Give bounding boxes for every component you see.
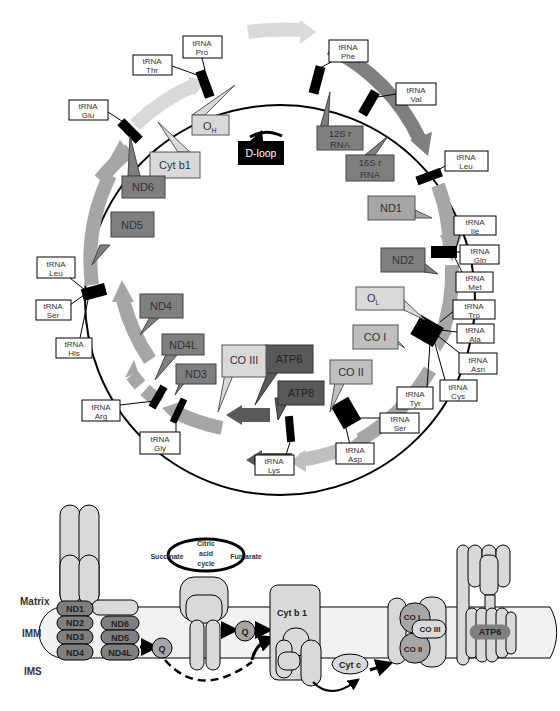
cytc-label: Cyt c xyxy=(339,660,361,670)
svg-text:tRNA: tRNA xyxy=(456,153,476,162)
svg-text:tRNA: tRNA xyxy=(405,390,425,399)
trna-leu-1: tRNALeu xyxy=(435,151,488,172)
svg-text:ND2: ND2 xyxy=(66,618,84,628)
matrix-label: Matrix xyxy=(20,596,50,607)
svg-text:tRNA: tRNA xyxy=(465,326,485,335)
svg-text:tRNA: tRNA xyxy=(91,403,111,412)
complex1-arm xyxy=(60,505,138,615)
svg-text:Ile: Ile xyxy=(471,227,480,236)
trna-bar-val xyxy=(358,89,380,117)
trna-gln: tRNAGln xyxy=(457,245,499,265)
svg-text:Asn: Asn xyxy=(471,365,485,374)
svg-text:Arg: Arg xyxy=(95,412,107,421)
nd4l-arrow xyxy=(132,375,140,385)
svg-text:Phe: Phe xyxy=(341,52,356,61)
rrna16-label-1: 16S r xyxy=(359,157,382,168)
svg-text:Gln: Gln xyxy=(474,256,486,265)
svg-text:tRNA: tRNA xyxy=(468,356,488,365)
atp-synthase xyxy=(457,545,516,665)
svg-text:ND1: ND1 xyxy=(66,604,84,614)
nd5-arrow xyxy=(90,175,110,285)
trna-bar-ile-gln-met xyxy=(431,246,457,258)
svg-text:His: His xyxy=(68,349,80,358)
ol-callout xyxy=(356,287,404,310)
trna-pro: tRNAPro xyxy=(183,36,222,70)
svg-text:ND3: ND3 xyxy=(66,632,84,642)
complex3 xyxy=(270,585,321,686)
svg-text:Pro: Pro xyxy=(196,48,209,57)
svg-text:tRNA: tRNA xyxy=(390,415,410,424)
atp6-label-etc: ATP6 xyxy=(479,627,501,637)
trna-arg: tRNAArg xyxy=(82,400,154,421)
oh-arrow xyxy=(248,30,300,32)
svg-text:ND5: ND5 xyxy=(111,633,129,643)
svg-text:CO III: CO III xyxy=(420,625,441,634)
figure-caption-faded xyxy=(4,697,556,709)
svg-text:Cys: Cys xyxy=(451,392,465,401)
q-label-2: Q xyxy=(241,627,248,637)
svg-text:Ser: Ser xyxy=(47,311,60,320)
svg-text:Citric: Citric xyxy=(197,540,215,547)
atp6-label: ATP6 xyxy=(276,353,303,365)
rrna16-label-2: RNA xyxy=(360,169,381,180)
trna-ser-1: tRNASer xyxy=(352,413,419,433)
svg-text:Val: Val xyxy=(411,95,422,104)
trna-bar-phe xyxy=(309,65,326,95)
cytb-arrow xyxy=(135,85,195,125)
svg-text:Met: Met xyxy=(468,283,482,292)
trna-tyr: tRNATyr xyxy=(397,343,433,409)
imm-label: IMM xyxy=(22,628,41,639)
svg-text:Glu: Glu xyxy=(82,111,94,120)
co2-label: CO II xyxy=(338,366,364,378)
svg-text:acid: acid xyxy=(199,550,213,557)
svg-text:CO I: CO I xyxy=(404,613,420,622)
svg-text:Thr: Thr xyxy=(146,66,158,75)
svg-text:Trp: Trp xyxy=(468,311,480,320)
q-label-1: Q xyxy=(158,644,165,654)
svg-text:ND4L: ND4L xyxy=(108,648,132,658)
svg-text:Leu: Leu xyxy=(459,162,472,171)
rrna12-label-1: 12S r xyxy=(329,128,352,139)
svg-text:Succinate: Succinate xyxy=(150,553,183,560)
nd5-label: ND5 xyxy=(121,219,143,231)
nd4-label: ND4 xyxy=(150,300,172,312)
svg-text:Ser: Ser xyxy=(394,424,407,433)
svg-text:tRNA: tRNA xyxy=(464,302,484,311)
ims-label: IMS xyxy=(24,666,42,677)
svg-text:tRNA: tRNA xyxy=(345,446,365,455)
svg-text:Ala: Ala xyxy=(469,335,481,344)
svg-text:Asp: Asp xyxy=(348,455,362,464)
svg-text:CO II: CO II xyxy=(404,645,423,654)
svg-text:tRNA: tRNA xyxy=(264,457,284,466)
nd2-label: ND2 xyxy=(392,254,414,266)
trna-glu: tRNAGlu xyxy=(69,100,128,125)
cytb-label-etc: Cyt b 1 xyxy=(277,608,307,618)
mitochondrial-diagram: OH D-loop 12S r RNA 16S r RNA Cyt b1 ND6… xyxy=(0,0,560,711)
svg-text:tRNA: tRNA xyxy=(78,102,98,111)
svg-text:cycle: cycle xyxy=(197,560,215,568)
co3-label: CO III xyxy=(230,354,259,366)
svg-text:tRNA: tRNA xyxy=(470,247,490,256)
svg-text:Fumarate: Fumarate xyxy=(230,553,262,560)
svg-text:tRNA: tRNA xyxy=(43,302,63,311)
rrna12-label-2: RNA xyxy=(330,139,351,150)
trna-bar-leu xyxy=(415,168,443,185)
trna-bar-lys xyxy=(285,416,295,443)
co3-arrow xyxy=(175,412,222,428)
citric-cycle-labels: Citric acid cycle Succinate Fumarate xyxy=(150,540,261,568)
trna-gly: tRNAGly xyxy=(140,424,180,454)
svg-text:tRNA: tRNA xyxy=(46,260,66,269)
etc-diagram: Matrix IMM IMS ND1 ND2 ND3 ND4 ND6 ND5 N… xyxy=(20,505,557,691)
nd4l-label: ND4L xyxy=(169,339,197,351)
svg-text:Tyr: Tyr xyxy=(409,399,420,408)
svg-text:tRNA: tRNA xyxy=(150,435,170,444)
svg-text:Lys: Lys xyxy=(268,466,280,475)
dloop-arc xyxy=(250,132,282,137)
svg-text:tRNA: tRNA xyxy=(406,86,426,95)
svg-text:Gly: Gly xyxy=(154,444,166,453)
svg-text:Leu: Leu xyxy=(49,269,62,278)
atp8-label: ATP8 xyxy=(288,387,315,399)
dloop-label: D-loop xyxy=(246,147,277,159)
nd3-label: ND3 xyxy=(185,368,207,380)
nd1-label: ND1 xyxy=(380,202,402,214)
